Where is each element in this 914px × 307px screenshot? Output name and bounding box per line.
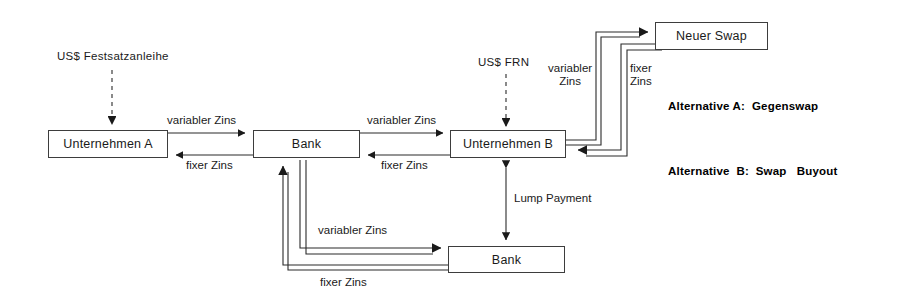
node-neuer-swap: Neuer Swap xyxy=(655,22,768,50)
edge-label-a-to-bank-variabler: variabler Zins xyxy=(167,114,236,127)
edge-label-b-to-swap-variabler: variabler Zins xyxy=(548,62,592,88)
edge-bank-to-bottombank-variabler xyxy=(300,160,441,254)
node-unternehmen-a: Unternehmen A xyxy=(48,130,168,158)
edge-label-b-to-bank-fixer: fixer Zins xyxy=(381,159,428,172)
node-label-unternehmen-b: Unternehmen B xyxy=(463,137,553,151)
source-label-us-frn: US$ FRN xyxy=(478,56,529,68)
node-bank-top: Bank xyxy=(253,130,360,158)
alternative-b-label: Alternative B: Swap Buyout xyxy=(668,165,838,177)
edge-label-bottom-fixer: fixer Zins xyxy=(320,276,367,289)
edge-b-to-swap-variabler xyxy=(566,32,648,145)
node-label-bank-top: Bank xyxy=(292,137,321,151)
source-label-us-festsatzanleihe: US$ Festsatzanleihe xyxy=(57,50,169,62)
edge-label-bank-to-a-fixer: fixer Zins xyxy=(186,159,233,172)
edge-label-lump-payment: Lump Payment xyxy=(514,192,591,205)
node-bank-bottom: Bank xyxy=(448,246,565,273)
edge-label-bank-to-b-variabler: variabler Zins xyxy=(367,114,436,127)
node-label-neuer-swap: Neuer Swap xyxy=(676,29,747,43)
edge-swap-to-b-fixer xyxy=(578,44,662,156)
edge-label-swap-to-b-fixer: fixer Zins xyxy=(630,62,652,88)
node-unternehmen-b: Unternehmen B xyxy=(450,130,566,158)
edge-label-bottom-variabler: variabler Zins xyxy=(318,224,387,237)
node-label-bank-bottom: Bank xyxy=(492,253,521,267)
alternative-a-label: Alternative A: Gegenswap xyxy=(668,100,818,112)
node-label-unternehmen-a: Unternehmen A xyxy=(63,137,152,151)
swap-diagram: Unternehmen A Bank Unternehmen B Neuer S… xyxy=(0,0,914,307)
